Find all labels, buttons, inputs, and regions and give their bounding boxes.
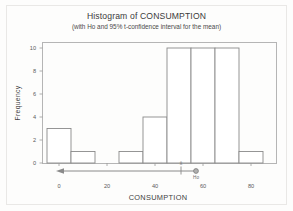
table-row bbox=[167, 48, 191, 163]
table-row bbox=[239, 152, 263, 164]
table-row bbox=[143, 117, 167, 163]
table-row bbox=[215, 48, 239, 163]
confidence-interval-annotation bbox=[56, 167, 198, 175]
x-tick-label-80: 80 bbox=[248, 183, 254, 189]
histogram-figure: Histogram of CONSUMPTION (with Ho and 95… bbox=[0, 0, 293, 211]
null-hypothesis-label: Ho bbox=[193, 175, 199, 180]
x-axis-title: CONSUMPTION bbox=[129, 193, 188, 202]
x-tick-label-40: 40 bbox=[152, 183, 158, 189]
table-row bbox=[191, 48, 215, 163]
null-hypothesis-marker bbox=[194, 169, 199, 174]
y-axis-title: Frequency bbox=[14, 85, 22, 120]
y-tick-label-0: 0 bbox=[33, 160, 36, 166]
x-tick-label-0: 0 bbox=[57, 183, 60, 189]
y-tick-label-10: 10 bbox=[30, 45, 36, 51]
y-tick-label-8: 8 bbox=[33, 68, 36, 74]
left-arrow-icon bbox=[56, 168, 64, 174]
y-tick-label-2: 2 bbox=[33, 137, 36, 143]
y-tick-label-4: 4 bbox=[33, 114, 36, 120]
bar-series bbox=[47, 48, 263, 163]
table-row bbox=[47, 129, 71, 164]
y-tick-label-6: 6 bbox=[33, 91, 36, 97]
x-tick-label-60: 60 bbox=[200, 183, 206, 189]
table-row bbox=[119, 152, 143, 164]
x-tick-label-20: 20 bbox=[104, 183, 110, 189]
table-row bbox=[71, 152, 95, 164]
plot-area: 0 2 4 6 8 10 Frequency x̄ Ho bbox=[0, 0, 293, 211]
